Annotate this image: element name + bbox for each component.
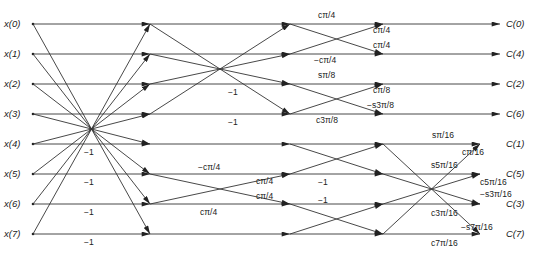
stage3-weight: cπ/8: [373, 85, 390, 95]
stage3-weight: −1: [318, 177, 328, 187]
stage4-weight: s5π/16: [431, 160, 458, 170]
stage3-weight: cπ/4: [373, 40, 390, 50]
stage3-weight: cπ/4: [318, 10, 335, 20]
output-c5: C(5): [506, 168, 524, 179]
stage1-weight: −1: [84, 237, 94, 247]
input-x0: x(0): [3, 18, 20, 29]
output-c4: C(4): [506, 48, 524, 59]
stage4-edges: [383, 24, 500, 234]
output-c7: C(7): [506, 228, 524, 239]
stage3-weight: −cπ/4: [314, 55, 336, 65]
stage3-weight: sπ/8: [318, 70, 335, 80]
dct-flow-graph: x(0) x(1) x(2) x(3) x(4) x(5) x(6) x(7): [0, 0, 534, 256]
output-c1: C(1): [506, 138, 524, 149]
input-x5: x(5): [3, 168, 20, 179]
stage3-labels: cπ/4 cπ/4 cπ/4 −cπ/4 sπ/8 cπ/8 −s3π/8 c3…: [314, 10, 394, 205]
output-c2: C(2): [506, 78, 524, 89]
input-x7: x(7): [3, 228, 20, 239]
stage3-weight: c3π/8: [316, 115, 338, 125]
input-x3: x(3): [3, 108, 20, 119]
stage2-weight: −cπ/4: [198, 162, 220, 172]
stage3-weight: −1: [318, 195, 328, 205]
input-x1: x(1): [3, 48, 20, 59]
stage4-weight: sπ/16: [432, 130, 454, 140]
stage1-weight: −1: [84, 207, 94, 217]
stage2-weight: cπ/4: [200, 207, 217, 217]
input-x6: x(6): [3, 198, 20, 209]
output-labels: C(0) C(4) C(2) C(6) C(1) C(5) C(3) C(7): [506, 18, 524, 239]
stage4-weight: c3π/16: [431, 208, 458, 218]
stage1-labels: −1 −1 −1 −1: [84, 147, 94, 247]
stage1-edges: [33, 24, 150, 234]
stage4-labels: sπ/16 cπ/16 s5π/16 c5π/16 −s3π/16 c3π/16…: [431, 130, 512, 248]
output-c6: C(6): [506, 108, 524, 119]
input-labels: x(0) x(1) x(2) x(3) x(4) x(5) x(6) x(7): [3, 18, 20, 239]
stage3-edges: [290, 24, 383, 234]
output-c0: C(0): [506, 18, 524, 29]
stage2-weight: −1: [228, 87, 238, 97]
stage2-labels: −1 −1 −cπ/4 cπ/4 cπ/4 cπ/4: [198, 87, 273, 217]
output-c3: C(3): [506, 198, 524, 209]
stage2-weight: cπ/4: [256, 191, 273, 201]
input-x2: x(2): [3, 78, 20, 89]
stage1-weight: −1: [84, 147, 94, 157]
stage4-weight: cπ/16: [462, 147, 484, 157]
stage1-weight: −1: [84, 177, 94, 187]
stage2-edges: [150, 24, 290, 234]
stage2-weight: cπ/4: [256, 176, 273, 186]
stage3-weight: −s3π/8: [367, 100, 394, 110]
stage2-weight: −1: [228, 117, 238, 127]
stage4-weight: c7π/16: [431, 238, 458, 248]
stage4-weight: c5π/16: [480, 177, 507, 187]
stage4-weight: −s7π/16: [461, 222, 493, 232]
input-x4: x(4): [3, 138, 20, 149]
stage3-weight: cπ/4: [373, 25, 390, 35]
